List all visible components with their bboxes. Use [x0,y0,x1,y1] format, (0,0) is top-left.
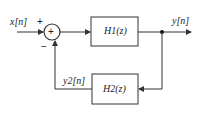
feedback-label: y2[n] [63,76,85,86]
diagram-canvas [0,0,200,115]
h1-label: H1(z) [104,26,127,36]
input-plus-sign: + [37,17,43,27]
feedback-minus-sign: − [41,42,47,52]
feedback-path-to-h2 [139,32,162,89]
input-label: x[n] [10,17,27,27]
summer-plus-symbol: + [48,27,54,37]
h2-label: H2(z) [103,84,126,94]
output-label: y[n] [172,16,189,26]
